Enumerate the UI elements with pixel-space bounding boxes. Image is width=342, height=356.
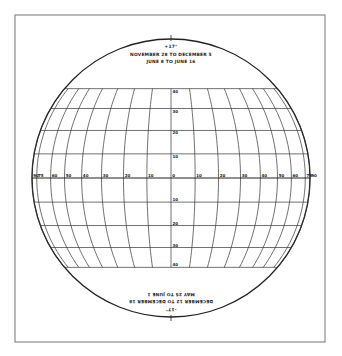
latitude-label-south: 40 [173,262,179,267]
longitude-label: 0 [172,173,175,178]
bottom-date-range-2: DECEMBER 12 TO DECEMBER 18 [129,299,213,304]
top-date-range-2: JUNE 8 TO JUNE 16 [145,59,195,64]
longitude-label: 90 [311,173,317,178]
longitude-label: 20 [125,173,131,178]
latitude-label-north: 40 [173,89,179,94]
longitude-label: 10 [148,173,154,178]
latitude-label-north: 20 [173,130,179,135]
longitude-label: 75 [38,173,44,178]
sun-chart-diagram: 9075605040302010010203040506075901020304… [0,0,342,356]
bottom-declination-label: -17° [166,307,177,312]
top-date-range-1: NOVEMBER 28 TO DECEMBER 5 [130,52,212,57]
longitude-label: 40 [83,173,89,178]
latitude-label-north: 10 [173,154,179,159]
longitude-label: 30 [103,173,109,178]
latitude-label-north: 30 [173,109,179,114]
longitude-label: 20 [220,173,226,178]
latitude-label-south: 10 [173,197,179,202]
longitude-label: 50 [279,173,285,178]
longitude-label: 50 [66,173,72,178]
latitude-label-south: 30 [173,243,179,248]
bottom-date-range-1: MAY 25 TO JUNE 1 [147,292,195,297]
longitude-label: 60 [52,173,58,178]
latitude-label-south: 20 [173,221,179,226]
longitude-label: 30 [242,173,248,178]
longitude-label: 40 [262,173,268,178]
longitude-label: 10 [196,173,202,178]
top-declination-label: +17° [165,44,178,49]
longitude-label: 60 [293,173,299,178]
